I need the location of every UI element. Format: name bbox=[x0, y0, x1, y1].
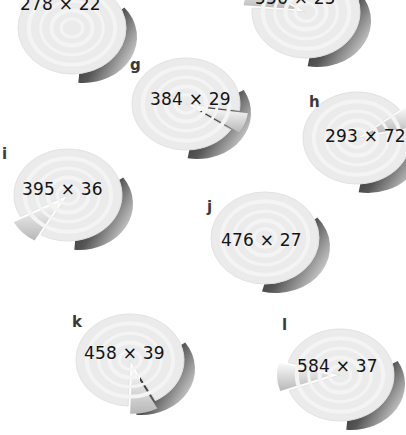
pie-caption-l: 584 × 37 bbox=[297, 358, 378, 375]
pie-panel-label-l: l bbox=[282, 318, 287, 333]
